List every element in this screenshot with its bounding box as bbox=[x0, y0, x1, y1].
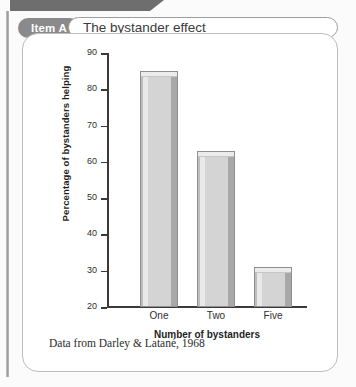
y-axis-tick bbox=[101, 234, 107, 236]
bar-one bbox=[140, 71, 178, 307]
source-caption: Data from Darley & Latané, 1968 bbox=[49, 337, 205, 349]
y-axis-tick-label: 20 bbox=[73, 301, 97, 311]
y-axis-tick bbox=[101, 307, 107, 309]
bar-two bbox=[197, 151, 235, 307]
top-tab-decoration bbox=[10, 0, 150, 11]
y-axis-tick-label: 90 bbox=[73, 47, 97, 57]
page-root: Item A The bystander effect Percentage o… bbox=[0, 0, 356, 387]
y-axis-tick bbox=[101, 198, 107, 200]
y-axis-tick-label: 40 bbox=[73, 228, 97, 238]
y-axis-tick bbox=[101, 271, 107, 273]
x-axis-category-label: Two bbox=[186, 310, 246, 321]
y-axis-line bbox=[107, 53, 109, 307]
x-axis-category-label: One bbox=[129, 310, 189, 321]
y-axis-tick-label: 70 bbox=[73, 120, 97, 130]
y-axis-tick bbox=[101, 89, 107, 91]
y-axis-tick-label: 60 bbox=[73, 156, 97, 166]
y-axis-tick-label: 80 bbox=[73, 83, 97, 93]
x-axis-category-label: Five bbox=[243, 310, 303, 321]
content-card: Percentage of bystanders helping Number … bbox=[22, 33, 338, 372]
y-axis-tick bbox=[101, 53, 107, 55]
bar-chart: Percentage of bystanders helping Number … bbox=[23, 34, 339, 373]
y-axis-tick-label: 30 bbox=[73, 265, 97, 275]
y-axis-tick bbox=[101, 162, 107, 164]
y-axis-title: Percentage of bystanders helping bbox=[60, 59, 71, 229]
left-margin-rule bbox=[6, 11, 9, 377]
y-axis-tick bbox=[101, 126, 107, 128]
y-axis-tick-label: 50 bbox=[73, 192, 97, 202]
bar-five bbox=[254, 267, 292, 307]
